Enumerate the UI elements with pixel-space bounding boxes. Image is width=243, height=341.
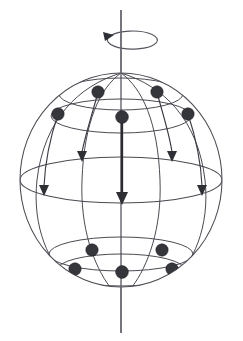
particle-dot bbox=[86, 244, 98, 256]
particle-dot bbox=[92, 86, 104, 98]
flow-arrow-p3 bbox=[44, 114, 58, 186]
particle-dot bbox=[116, 266, 129, 279]
figure-root bbox=[0, 0, 243, 341]
flow-arrow-p4 bbox=[188, 114, 202, 186]
particle-dot bbox=[116, 111, 129, 124]
rotation-arc bbox=[107, 31, 157, 49]
particle-dot bbox=[182, 108, 194, 120]
rotation-direction-indicator bbox=[103, 31, 157, 49]
particle-dot bbox=[166, 263, 178, 275]
particle-dot bbox=[52, 108, 64, 120]
rotating-sphere-diagram bbox=[0, 0, 243, 341]
flow-arrow-group bbox=[39, 92, 207, 205]
particle-dot bbox=[151, 86, 163, 98]
particle-dot bbox=[156, 244, 168, 256]
rotation-arrow-head bbox=[103, 32, 114, 41]
flow-arrow-head-p1 bbox=[77, 151, 87, 162]
